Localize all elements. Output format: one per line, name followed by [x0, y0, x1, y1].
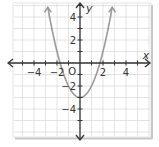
origin-label: O [68, 66, 76, 77]
x-tick-label: −4 [27, 67, 42, 78]
y-tick-label: −2 [61, 81, 76, 92]
x-axis-label: x [142, 49, 150, 62]
x-tick-label: 4 [123, 67, 129, 78]
y-axis-label: y [85, 2, 93, 15]
x-tick-label: −2 [50, 67, 65, 78]
y-tick-label: 2 [70, 35, 76, 46]
y-tick-label: −4 [61, 104, 76, 115]
parabola-graph: −4−22442−2−4Oxy [0, 0, 159, 147]
y-tick-label: 4 [70, 12, 76, 23]
x-tick-label: 2 [100, 67, 106, 78]
